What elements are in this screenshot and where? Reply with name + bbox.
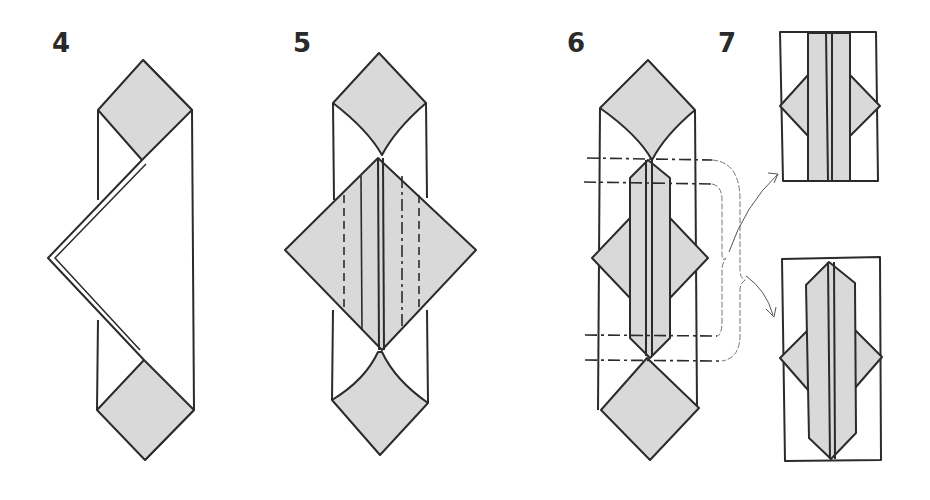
- step-number-7: 7: [718, 28, 736, 58]
- mountain-fold-line: [585, 360, 722, 361]
- step-4-figure: [48, 60, 194, 460]
- step-7-result-top: [780, 32, 880, 181]
- step-6-figure: [584, 60, 778, 460]
- step-number-5: 5: [293, 28, 311, 58]
- center-diamond: [285, 158, 476, 350]
- step-number-4: 4: [52, 28, 70, 58]
- shaded-corner-top: [98, 60, 192, 160]
- arrow-to-bottom-result: [746, 276, 773, 315]
- shaded-corner-top: [333, 53, 426, 155]
- step-number-6: 6: [567, 28, 585, 58]
- bracket: [712, 184, 726, 336]
- shaded-corner-bottom: [332, 352, 428, 455]
- shaded-corner-bottom: [601, 358, 699, 460]
- mountain-fold-line: [584, 182, 712, 184]
- center-panel: [806, 262, 856, 459]
- center-panel: [630, 160, 670, 358]
- bracket: [712, 160, 745, 361]
- shaded-corner-bottom: [97, 360, 194, 460]
- shaded-corner-top: [600, 60, 695, 160]
- step-5-figure: [285, 53, 476, 455]
- step-7-result-bottom: [780, 257, 882, 461]
- mountain-fold-line: [587, 158, 712, 160]
- origami-diagram: 4 5 6 7: [0, 0, 930, 500]
- arrow-to-top-result: [729, 174, 778, 252]
